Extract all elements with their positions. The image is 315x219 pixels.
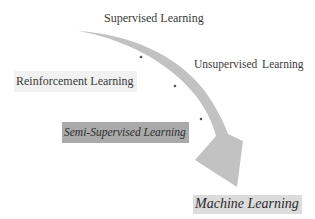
arrow-marker-2 (172, 83, 178, 89)
label-machine-learning: Machine Learning (193, 195, 302, 214)
arrow-marker-3 (198, 116, 204, 122)
curved-arrow-icon (0, 0, 315, 219)
arrow-marker-1 (138, 54, 144, 60)
label-supervised-learning: Supervised Learning (104, 12, 204, 24)
label-unsupervised-learning: Unsupervised Learning (194, 59, 304, 71)
label-semi-supervised-learning: Semi-Supervised Learning (62, 122, 189, 143)
label-reinforcement-learning: Reinforcement Learning (14, 71, 137, 92)
curved-arrow-shape (78, 31, 243, 187)
ml-diagram: Supervised Learning Unsupervised Learnin… (0, 0, 315, 219)
